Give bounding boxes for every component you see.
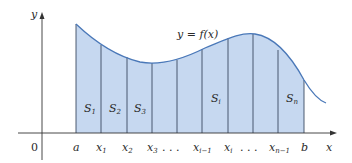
tick-x-n-minus-1: xn−1: [269, 141, 290, 155]
tick-x-i: xi: [224, 141, 232, 155]
tick-x1: x1: [96, 141, 107, 155]
tick-ellipsis-2: . . .: [240, 141, 257, 154]
tick-b: b: [301, 141, 308, 154]
riemann-diagram: y x 0 y = f(x) a x1 x2 x3 . . . xi−1 xi …: [0, 0, 352, 163]
tick-a: a: [73, 141, 80, 154]
y-axis-label: y: [30, 8, 38, 21]
x-axis-arrow-icon: [330, 131, 337, 136]
origin-label: 0: [31, 141, 38, 154]
tick-x3: x3: [147, 141, 158, 155]
tick-x2: x2: [122, 141, 133, 155]
tick-labels: a x1 x2 x3 . . . xi−1 xi . . . xn−1 b: [73, 141, 308, 155]
tick-x-i-minus-1: xi−1: [193, 141, 212, 155]
x-axis-label: x: [326, 141, 333, 154]
y-axis-arrow-icon: [40, 12, 45, 19]
curve-label: y = f(x): [176, 28, 218, 41]
tick-ellipsis-1: . . .: [162, 141, 179, 154]
